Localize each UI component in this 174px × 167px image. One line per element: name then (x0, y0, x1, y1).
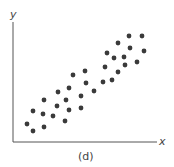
data-point (67, 108, 72, 113)
data-points (25, 34, 147, 134)
data-point (51, 114, 56, 119)
figure-caption: (d) (78, 151, 94, 162)
data-point (142, 49, 147, 54)
data-point (103, 65, 108, 70)
data-point (71, 73, 76, 78)
data-point (64, 98, 69, 103)
data-point (105, 51, 110, 56)
data-point (67, 86, 72, 91)
y-axis-label: y (10, 9, 17, 20)
data-point (135, 60, 140, 65)
data-point (55, 104, 60, 109)
data-point (56, 90, 61, 95)
data-point (42, 98, 47, 103)
data-point (127, 34, 132, 39)
scatter-plot (0, 0, 174, 167)
data-point (79, 106, 84, 111)
data-point (92, 89, 97, 94)
data-point (84, 81, 89, 86)
data-point (116, 41, 121, 46)
data-point (112, 56, 117, 61)
data-point (63, 119, 68, 124)
data-point (128, 46, 133, 51)
data-point (79, 94, 84, 99)
x-axis-label: x (159, 136, 166, 147)
data-point (31, 129, 36, 134)
data-point (140, 34, 145, 39)
data-point (31, 109, 36, 114)
data-point (116, 70, 121, 75)
data-point (41, 112, 46, 117)
data-point (123, 63, 128, 68)
data-point (42, 125, 47, 130)
data-point (122, 55, 127, 60)
data-point (25, 122, 30, 127)
data-point (101, 80, 106, 85)
data-point (110, 78, 115, 83)
data-point (83, 69, 88, 74)
